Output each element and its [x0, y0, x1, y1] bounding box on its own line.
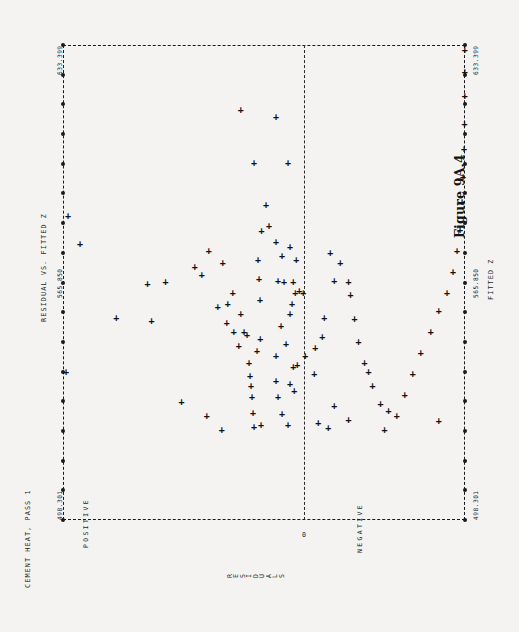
data-point — [337, 259, 344, 266]
data-point — [449, 268, 456, 275]
data-point — [461, 92, 468, 99]
data-point — [253, 347, 260, 354]
x-axis-title-letter: S — [278, 574, 286, 578]
data-point — [347, 291, 354, 298]
axis-tick — [61, 221, 65, 225]
y-tick-label-mid-right: 565.850 — [472, 268, 479, 298]
data-point — [203, 412, 210, 419]
data-point — [250, 159, 257, 166]
data-point — [417, 349, 424, 356]
data-point — [285, 159, 292, 166]
data-point — [345, 278, 352, 285]
data-point — [250, 423, 257, 430]
data-point — [230, 328, 237, 335]
data-point — [148, 317, 155, 324]
data-point — [273, 238, 280, 245]
axis-tick — [61, 102, 65, 106]
data-point — [256, 296, 263, 303]
data-point — [144, 280, 151, 287]
axis-tick — [463, 429, 467, 433]
data-point — [63, 368, 70, 375]
data-point — [291, 387, 298, 394]
axis-tick — [463, 251, 467, 255]
data-point — [435, 307, 442, 314]
y-tick-label-top-left: 633.399 — [56, 45, 63, 75]
figure-caption: Figure 9A.4 — [452, 154, 467, 238]
data-point — [355, 338, 362, 345]
axis-tick — [61, 162, 65, 166]
data-point — [321, 314, 328, 321]
data-point — [325, 424, 332, 431]
data-point — [461, 46, 468, 53]
axis-line-bottom — [63, 519, 465, 520]
axis-tick — [463, 310, 467, 314]
data-point — [77, 240, 84, 247]
data-point — [331, 277, 338, 284]
axis-tick — [463, 340, 467, 344]
axis-tick — [61, 429, 65, 433]
x-category-positive: POSITIVE — [82, 498, 90, 548]
x-category-negative: NEGATIVE — [356, 503, 364, 553]
data-point — [409, 370, 416, 377]
data-point — [229, 289, 236, 296]
data-point — [249, 409, 256, 416]
data-point — [243, 331, 250, 338]
data-point — [279, 252, 286, 259]
data-point — [401, 391, 408, 398]
data-point — [345, 416, 352, 423]
data-point — [113, 314, 120, 321]
dataset-title: CEMENT HEAT, PASS 1 — [24, 489, 32, 588]
data-point — [273, 113, 280, 120]
data-point — [281, 278, 288, 285]
axis-tick — [463, 132, 467, 136]
data-point — [461, 68, 468, 75]
data-point — [178, 398, 185, 405]
data-point — [248, 393, 255, 400]
data-point — [381, 426, 388, 433]
data-point — [287, 310, 294, 317]
axis-tick — [463, 281, 467, 285]
y-tick-label-bottom-right: 498.301 — [472, 490, 479, 520]
data-point — [237, 106, 244, 113]
data-point — [289, 300, 296, 307]
data-point — [461, 120, 468, 127]
data-point — [223, 319, 230, 326]
data-point — [224, 300, 231, 307]
axis-tick — [463, 370, 467, 374]
data-point — [453, 247, 460, 254]
data-point — [279, 410, 286, 417]
data-point — [331, 402, 338, 409]
data-point — [319, 333, 326, 340]
data-point — [312, 344, 319, 351]
data-point — [283, 340, 290, 347]
data-point — [302, 352, 309, 359]
data-point — [365, 368, 372, 375]
data-point — [300, 289, 307, 296]
figure-page: CEMENT HEAT, PASS 1 RESIDUAL VS. FITTED … — [0, 0, 519, 632]
data-point — [427, 328, 434, 335]
data-point — [263, 201, 270, 208]
data-point — [285, 421, 292, 428]
data-point — [247, 382, 254, 389]
data-point — [273, 377, 280, 384]
data-point — [218, 426, 225, 433]
data-point — [377, 400, 384, 407]
data-point — [246, 372, 253, 379]
data-point — [315, 419, 322, 426]
data-point — [198, 271, 205, 278]
axis-tick — [463, 518, 467, 522]
data-point — [214, 303, 221, 310]
axis-tick — [61, 310, 65, 314]
data-point — [258, 227, 265, 234]
y-axis-title: FITTED Z — [487, 258, 495, 300]
axis-tick — [463, 102, 467, 106]
zero-reference-line — [304, 45, 305, 520]
data-point — [191, 263, 198, 270]
data-point — [257, 335, 264, 342]
data-point — [327, 249, 334, 256]
axis-tick — [61, 459, 65, 463]
axis-tick — [61, 340, 65, 344]
data-point — [393, 412, 400, 419]
data-point — [255, 275, 262, 282]
data-point — [275, 393, 282, 400]
